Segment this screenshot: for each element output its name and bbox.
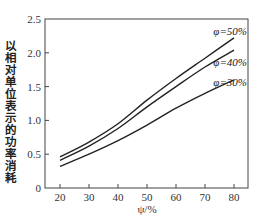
y-tick-label: 0 [36, 182, 42, 194]
x-tick-label: 30 [84, 191, 96, 203]
y-tick-label: 1.5 [27, 81, 41, 93]
y-tick-label: 2.0 [27, 47, 41, 59]
x-axis-label: ψ/% [137, 203, 156, 215]
y-tick-label: 1.0 [27, 114, 41, 126]
legend-label-phi-30: φ=30% [213, 76, 247, 88]
x-tick-label: 40 [113, 191, 125, 203]
x-tick-label: 20 [55, 191, 67, 203]
legend-label-phi-50: φ=50% [213, 25, 247, 37]
x-tick-label: 60 [171, 191, 183, 203]
plot-frame [45, 19, 248, 188]
series-line-phi-30 [60, 80, 234, 167]
x-tick-label: 80 [229, 191, 241, 203]
y-tick-label: 2.5 [27, 13, 41, 25]
line-chart: 00.51.01.52.02.520304050607080ψ/%φ=50%φ=… [0, 0, 259, 219]
legend-label-phi-40: φ=40% [213, 56, 247, 68]
y-tick-label: 0.5 [27, 148, 41, 160]
series-line-phi-50 [60, 38, 234, 157]
x-tick-label: 70 [200, 191, 212, 203]
x-tick-label: 50 [142, 191, 154, 203]
